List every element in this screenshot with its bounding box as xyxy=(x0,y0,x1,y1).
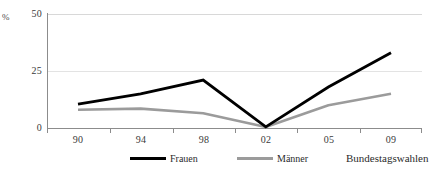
legend-item-frauen: Frauen xyxy=(130,153,198,164)
line-chart: % 50 25 0 90 94 98 02 05 09 Frauen Männe… xyxy=(0,0,447,177)
series-line-maenner xyxy=(78,94,391,127)
legend-swatch-frauen xyxy=(130,157,166,160)
legend-swatch-maenner xyxy=(237,157,273,160)
legend-item-maenner: Männer xyxy=(237,153,308,164)
x-axis-title: Bundestagswahlen xyxy=(346,152,428,164)
series-plot xyxy=(0,0,447,177)
legend-label-frauen: Frauen xyxy=(170,153,198,164)
legend-label-maenner: Männer xyxy=(277,153,308,164)
series-line-frauen xyxy=(78,53,391,127)
